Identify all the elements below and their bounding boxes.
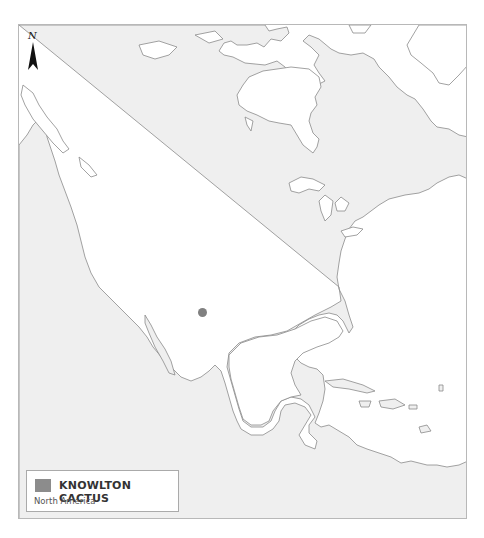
legend: KNOWLTON CACTUS North America (26, 470, 179, 512)
greenland (407, 25, 467, 85)
north-label: N (28, 30, 37, 41)
north-arrow-icon (26, 42, 40, 72)
north-america-basemap (19, 25, 467, 519)
north-arrow: N (26, 30, 40, 72)
map-frame: N (18, 24, 467, 519)
occurrence-point (198, 308, 207, 317)
caribbean-islands (325, 379, 443, 433)
legend-swatch (35, 479, 51, 492)
legend-subtitle: North America (34, 496, 96, 506)
